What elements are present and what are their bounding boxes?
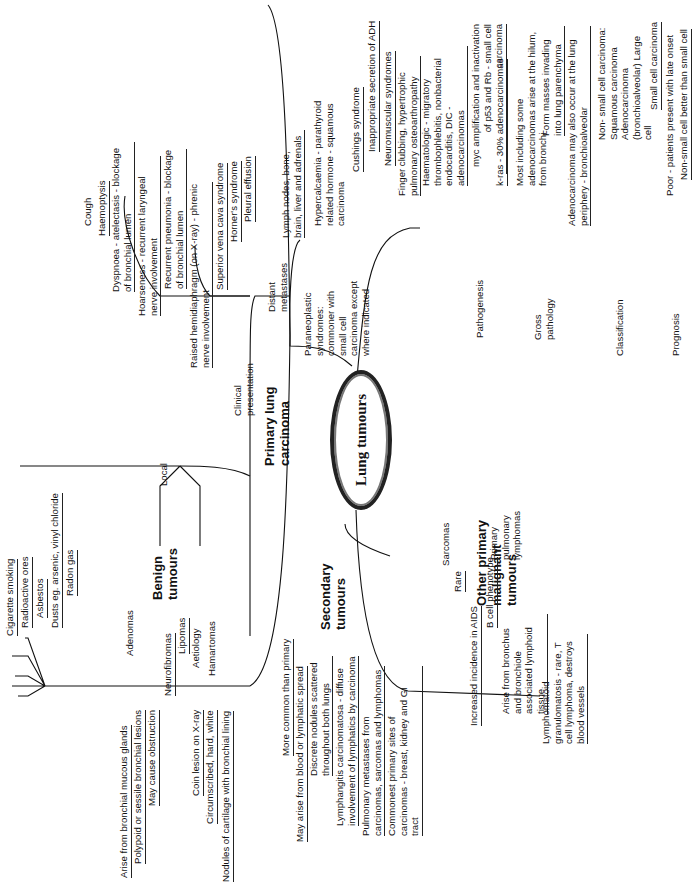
secondary-item: More common than primary [280, 639, 294, 756]
neurofibromas-label: Neurofibromas [162, 633, 176, 696]
local-item: Haemoptysis [96, 181, 110, 236]
center-node: Lung tumours [330, 370, 392, 510]
local-item: Recurrent pneumonia - blockage of bronch… [162, 149, 187, 289]
aetiology-item: Radon gas [64, 550, 78, 596]
secondary-item: Commonest primary sites of carcinomas - … [386, 666, 423, 836]
local-item: Horner's syndrome [228, 161, 242, 242]
sarcomas-label: Sarcomas [440, 523, 452, 566]
secondary-item: Pulmonary metastases from carcinomas, sa… [360, 666, 385, 836]
secondary-heading: Secondary tumours [318, 550, 348, 630]
center-label: Lung tumours [353, 394, 370, 486]
pathogenesis-label: Pathogenesis [474, 280, 486, 338]
adenomas-item: Polypoid or sessile bronchial lesions [132, 710, 146, 864]
classification-item: Small cell carcinoma [648, 22, 662, 110]
hamartomas-label: Hamartomas [206, 621, 218, 676]
secondary-item: Lymphangitis carcinomatosa - diffuse inv… [334, 656, 359, 826]
prognosis-label: Prognosis [670, 313, 682, 356]
adenomas-item: Arise from bronchial mucous glands [118, 725, 132, 878]
paraneoplastic-item: Cushings syndrome [350, 87, 364, 172]
lipomas-label: Lipomas [176, 618, 190, 654]
classification-item: Non- small cell carcinoma: Squamous carc… [596, 20, 654, 140]
adenomas-label: Adenomas [124, 610, 136, 656]
adenomas-item: May cause obstruction [146, 710, 160, 806]
benign-heading: Benign tumours [150, 520, 180, 600]
hamartomas-item: Coin lesion on X-ray [190, 710, 204, 796]
pathogenesis-item: k-ras - 30% adenocarcinomas [494, 59, 508, 186]
gross-item: Form masses invading into lung parenchym… [540, 26, 565, 136]
prognosis-item: Non-small cell better than small cell [678, 29, 692, 180]
aetiology-item: Radioactive ores [19, 557, 33, 628]
hamartomas-item: Nodules of cartilage with bronchial lini… [220, 711, 234, 882]
lymphomas-item: Lymphomatoid granulomatosis - rare, T ce… [540, 634, 588, 744]
primary-carcinoma-heading: Primary lung carcinoma [262, 366, 292, 466]
aetiology-item: Asbestos [34, 579, 48, 618]
secondary-item: Discrete nodules scattered throughout bo… [308, 656, 333, 776]
prognosis-item: Poor - patients present with late onset [664, 35, 676, 196]
paraneoplastic-item: Finger clubbing, hypertrophic pulmonary … [396, 56, 421, 196]
paraneoplastic-item: Hypercalcaemia - parathyroid related hor… [312, 96, 347, 226]
aetiology-label: Aetiology [190, 629, 202, 668]
sarcomas-item: Rare [452, 571, 466, 592]
local-item: Dyspnoea - atelectasis - blockage of bro… [110, 142, 135, 292]
secondary-item: May arise from blood or lymphatic spread [294, 666, 308, 842]
local-item: Hoarseness - recurrent laryngeal nerve i… [136, 156, 161, 316]
clinical-label: Clinical presentation [232, 354, 255, 416]
aetiology-item: Cigarette smoking [4, 559, 18, 636]
gross-label: Gross pathology [532, 284, 555, 340]
lymphomas-label: Primary pulmonary lymphomas [488, 498, 523, 560]
local-item: Raised hemidiaphragm (on X-ray) - phreni… [188, 182, 213, 368]
paraneoplastic-item: Neuromuscular syndromes [382, 51, 396, 166]
paraneoplastic-item: Inappropriate secretion of ADH [366, 21, 380, 152]
local-label: Local [158, 463, 170, 486]
hamartomas-item: Circumscribed, hard, white [204, 710, 218, 824]
local-item: Cough [82, 198, 94, 226]
lymphomas-item: B cell phenotype [484, 557, 498, 628]
paraneoplastic-label: Paraneoplastic syndromes: commoner with … [302, 280, 371, 356]
paraneoplastic-item: Haematologic - migratory thrombophlebiti… [420, 46, 468, 186]
distant-label: Distant metastases [266, 252, 289, 312]
distant-item: Lymph nodes, bone, brain, liver and adre… [280, 130, 305, 238]
local-item: Pleural effusion [242, 156, 256, 222]
lymphomas-item: Increased incidence in AIDS [468, 606, 482, 726]
gross-item: Adenocarcinoma may also occur at the lun… [566, 26, 591, 226]
aetiology-item: Dusts eg. arsenic, vinyl chloride [49, 493, 63, 628]
local-item: Superior vena cava syndrome [214, 163, 228, 290]
mind-map: Lung tumours Primary lung carcinoma Aeti… [0, 0, 695, 886]
classification-label: Classification [614, 299, 626, 356]
